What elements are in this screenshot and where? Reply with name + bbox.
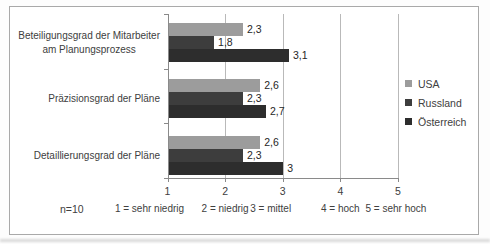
legend-marker-Österreich	[405, 118, 412, 125]
legend-entry-USA: USA	[405, 74, 466, 93]
legend-entry-Russland: Russland	[405, 93, 466, 112]
legend-entry-Österreich: Österreich	[405, 112, 466, 131]
legend-marker-Russland	[405, 99, 412, 106]
legend: USARusslandÖsterreich	[405, 74, 466, 131]
sample-size-note: n=10	[60, 203, 84, 215]
legend-label-Österreich: Österreich	[418, 116, 466, 128]
chart-figure: 2,31,83,12,62,32,72,62,33 Beteiligungsgr…	[0, 0, 490, 244]
scan-shadow-artifact	[0, 239, 490, 242]
legend-label-Russland: Russland	[418, 97, 462, 109]
legend-marker-USA	[405, 80, 412, 87]
legend-label-USA: USA	[418, 78, 440, 90]
